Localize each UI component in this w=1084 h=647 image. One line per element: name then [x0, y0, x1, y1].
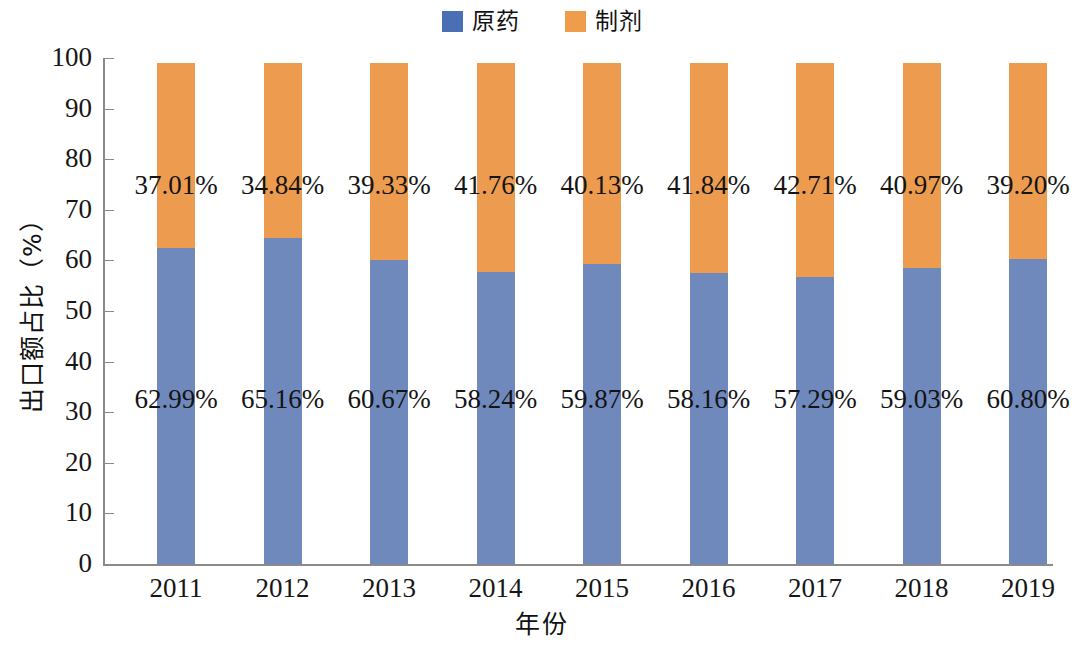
- y-axis-line: [103, 58, 105, 566]
- chart-legend: 原药 制剂: [0, 4, 1084, 38]
- y-axis-tick-label: 100: [30, 44, 92, 71]
- bar-group: [157, 63, 195, 564]
- legend-entry-yuanyao: 原药: [442, 10, 519, 33]
- x-axis-tick-label: 2015: [542, 573, 662, 603]
- bar-group: [583, 63, 621, 564]
- bar-segment-zhiji: [370, 63, 408, 260]
- y-axis-tick-label: 10: [30, 499, 92, 526]
- y-axis-tick-label: 0: [30, 550, 92, 577]
- bar-group: [370, 63, 408, 564]
- legend-label-zhiji: 制剂: [595, 10, 642, 33]
- legend-swatch-yuanyao: [442, 11, 463, 32]
- x-axis-tick-label: 2019: [968, 573, 1084, 603]
- bar-segment-zhiji: [903, 63, 941, 268]
- bar-group: [690, 63, 728, 564]
- bar-segment-yuanyao: [583, 264, 621, 564]
- bar-group: [1009, 63, 1047, 564]
- bar-segment-zhiji: [796, 63, 834, 277]
- bar-segment-zhiji: [583, 63, 621, 264]
- bar-segment-zhiji: [157, 63, 195, 248]
- y-axis-tick: [105, 412, 114, 413]
- x-axis-line: [103, 564, 1053, 566]
- y-axis-tick: [105, 159, 114, 160]
- bar-segment-yuanyao: [157, 248, 195, 564]
- y-axis-tick: [105, 564, 114, 565]
- y-axis-tick: [105, 463, 114, 464]
- x-axis-tick-label: 2016: [649, 573, 769, 603]
- x-axis-tick-label: 2013: [329, 573, 449, 603]
- bar-group: [264, 63, 302, 564]
- y-axis-tick-label: 90: [30, 95, 92, 122]
- y-axis-tick: [105, 58, 114, 59]
- bar-group: [477, 63, 515, 564]
- x-axis-tick-label: 2018: [862, 573, 982, 603]
- bar-group: [903, 63, 941, 564]
- y-axis-tick: [105, 311, 114, 312]
- y-axis-tick: [105, 362, 114, 363]
- bar-segment-yuanyao: [1009, 259, 1047, 564]
- legend-swatch-zhiji: [565, 11, 586, 32]
- x-axis-tick-label: 2012: [223, 573, 343, 603]
- y-axis-tick: [105, 210, 114, 211]
- bar-group: [796, 63, 834, 564]
- y-axis-tick: [105, 513, 114, 514]
- legend-label-yuanyao: 原药: [472, 10, 519, 33]
- y-axis-tick: [105, 109, 114, 110]
- bar-segment-zhiji: [477, 63, 515, 272]
- bar-segment-yuanyao: [690, 273, 728, 564]
- legend-entry-zhiji: 制剂: [565, 10, 642, 33]
- x-axis-title: 年份: [0, 612, 1084, 637]
- bar-segment-zhiji: [1009, 63, 1047, 259]
- bar-segment-yuanyao: [796, 277, 834, 564]
- y-axis-title: 出口额占比（%）: [20, 160, 45, 460]
- bar-segment-zhiji: [690, 63, 728, 273]
- bar-segment-zhiji: [264, 63, 302, 238]
- x-axis-tick-label: 2011: [116, 573, 236, 603]
- bar-segment-yuanyao: [477, 272, 515, 564]
- bar-segment-yuanyao: [264, 238, 302, 564]
- stacked-bar-chart: 原药 制剂 1009080706050403020100 出口额占比（%） 37…: [0, 0, 1084, 647]
- bar-segment-yuanyao: [370, 260, 408, 564]
- bar-segment-yuanyao: [903, 268, 941, 564]
- x-axis-tick-label: 2014: [436, 573, 556, 603]
- y-axis-tick: [105, 260, 114, 261]
- x-axis-tick-label: 2017: [755, 573, 875, 603]
